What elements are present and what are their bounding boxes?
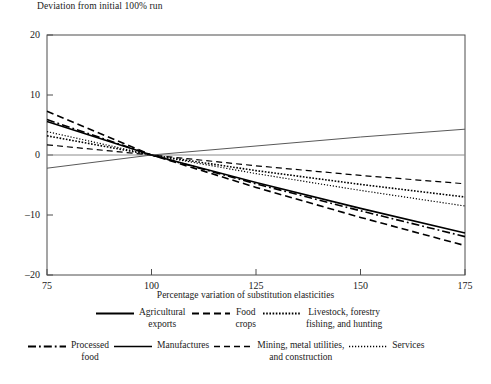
legend-entry: Food crops: [191, 307, 256, 330]
legend-label: Agricultural exports: [139, 307, 185, 330]
legend-label: Food crops: [235, 307, 256, 330]
series-line: [47, 111, 465, 245]
legend-label: Mining, metal utilities, and constructio…: [257, 340, 344, 363]
chart-figure: Deviation from initial 100% run 20100–10…: [0, 0, 491, 384]
legend-entry: Agricultural exports: [95, 307, 185, 330]
dotted-line-icon: [262, 308, 302, 319]
y-tick-label: 20: [14, 29, 40, 40]
legend-entry: Mining, metal utilities, and constructio…: [213, 340, 344, 363]
y-tick-label: –10: [14, 209, 40, 220]
dashed-line-icon: [191, 308, 231, 319]
legend-entry: Services: [348, 340, 424, 352]
legend-label: Manufactures: [157, 340, 209, 352]
legend-label: Livestock, forestry fishing, and hunting: [306, 307, 382, 330]
x-axis-label: Percentage variation of substitution ela…: [0, 290, 491, 300]
dash-dot-line-icon: [27, 341, 67, 352]
series-line: [47, 129, 465, 168]
y-tick-label: 0: [14, 149, 40, 160]
legend-label: Processed food: [71, 340, 109, 363]
series-lines: [47, 111, 465, 245]
legend-entry: Processed food: [27, 340, 109, 363]
legend-row-1: Agricultural exportsFood cropsLivestock,…: [0, 307, 491, 330]
y-tick-label: –20: [14, 269, 40, 280]
series-line: [47, 145, 465, 184]
solid-thin-line-icon: [113, 341, 153, 352]
legend-entry: Livestock, forestry fishing, and hunting: [262, 307, 382, 330]
solid-line-icon: [95, 308, 135, 319]
dashed-thin-line-icon: [213, 341, 253, 352]
dotted-fine-line-icon: [348, 341, 388, 352]
series-line: [47, 132, 465, 206]
legend-entry: Manufactures: [113, 340, 209, 352]
y-tick-label: 10: [14, 89, 40, 100]
legend-label: Services: [392, 340, 424, 352]
legend-row-2: Processed foodManufacturesMining, metal …: [0, 340, 491, 363]
